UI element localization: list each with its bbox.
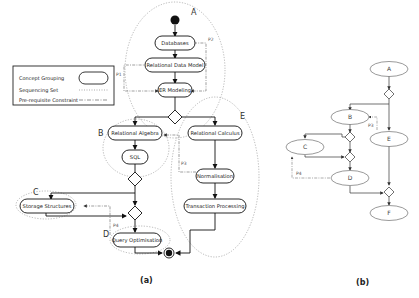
node-relational-calculus: Relational Calculus <box>188 126 242 140</box>
diagram-b: P3 P4 A B C D E F (b) <box>286 62 408 288</box>
concept-grouping-symbol <box>79 72 108 84</box>
legend-sequencing-set-label: Sequencing Set <box>19 87 58 94</box>
constraint-p2-label: P2 <box>208 37 214 42</box>
svg-text:B: B <box>348 113 352 120</box>
group-label-c: C <box>33 188 39 197</box>
caption-b: (b) <box>356 278 369 287</box>
group-label-b: B <box>98 129 104 138</box>
decision-node-1 <box>168 110 182 124</box>
constraint-p4-label: P4 <box>113 223 119 228</box>
b-node-a: A <box>370 62 408 77</box>
group-label-d: D <box>103 230 109 239</box>
svg-text:Relational Calculus: Relational Calculus <box>190 130 239 136</box>
b-decision-2 <box>345 132 355 142</box>
decision-node-2 <box>128 172 142 186</box>
svg-text:F: F <box>387 209 391 216</box>
start-node <box>171 16 180 25</box>
svg-text:Databases: Databases <box>161 40 189 46</box>
svg-text:SQL: SQL <box>130 154 140 160</box>
b-node-e: E <box>370 132 408 147</box>
b-decision-1 <box>384 89 394 99</box>
node-sql: SQL <box>122 150 148 164</box>
svg-text:Storage Structures: Storage Structures <box>23 203 72 210</box>
constraint-p3-label: P3 <box>181 161 187 166</box>
b-constraint-p3-label: P3 <box>368 123 374 128</box>
b-node-b: B <box>331 110 369 125</box>
svg-text:Transaction Processing: Transaction Processing <box>184 203 244 210</box>
b-decision-3 <box>345 152 355 162</box>
diagram-a: A B C D E P2 P1 <box>16 2 259 285</box>
legend: Concept Grouping Sequencing Set Pre-requ… <box>13 66 114 105</box>
node-transaction-processing: Transaction Processing <box>184 199 246 213</box>
b-node-f: F <box>370 206 408 221</box>
constraint-p1-label: P1 <box>116 72 122 77</box>
group-label-e: E <box>240 112 245 121</box>
b-node-c: C <box>286 140 324 155</box>
node-relational-algebra: Relational Algebra <box>108 126 162 140</box>
svg-text:Query Optimisation: Query Optimisation <box>112 237 163 244</box>
node-storage-structures: Storage Structures <box>20 199 74 213</box>
node-query-optimisation: Query Optimisation <box>112 233 163 247</box>
svg-text:Relational Algebra: Relational Algebra <box>111 130 158 137</box>
group-label-a: A <box>191 8 197 17</box>
b-decision-4 <box>384 187 394 197</box>
decision-node-3 <box>128 206 142 220</box>
b-node-d: D <box>331 171 369 186</box>
node-er-modeling: ER Modeling <box>158 83 192 97</box>
svg-text:E: E <box>387 135 391 142</box>
node-normalisation: Normalisation <box>196 169 234 183</box>
svg-text:Relational Data Model: Relational Data Model <box>147 62 204 68</box>
node-relational-data-model: Relational Data Model <box>145 58 205 72</box>
caption-a: (a) <box>140 276 153 285</box>
svg-text:C: C <box>303 143 307 150</box>
legend-prerequisite-label: Pre-requisite Constraint <box>19 97 78 104</box>
b-constraint-p4-label: P4 <box>296 171 302 176</box>
svg-text:ER Modeling: ER Modeling <box>159 87 191 94</box>
node-databases: Databases <box>155 36 195 50</box>
svg-text:D: D <box>348 174 353 181</box>
diagram-canvas: Concept Grouping Sequencing Set Pre-requ… <box>0 0 419 298</box>
svg-text:Normalisation: Normalisation <box>197 173 233 179</box>
legend-concept-grouping-label: Concept Grouping <box>19 75 64 82</box>
